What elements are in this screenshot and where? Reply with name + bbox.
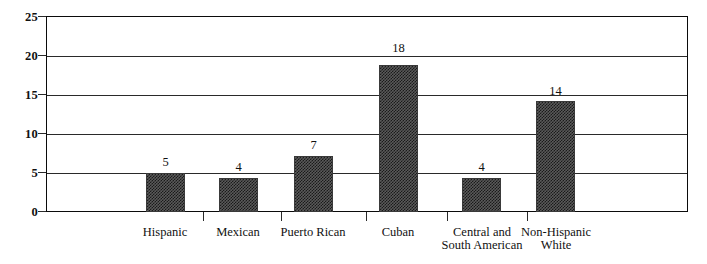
x-tick-mark [203, 212, 204, 221]
bar-mexican[interactable] [219, 178, 258, 213]
y-tick-label: 10 [8, 128, 38, 141]
bar-value-label: 18 [359, 42, 438, 55]
y-tick-label: 15 [8, 89, 38, 102]
bar-value-label: 7 [274, 139, 353, 152]
bar-cuban[interactable] [379, 65, 418, 212]
bar-puerto-rican[interactable] [294, 156, 333, 212]
y-tick-mark [38, 133, 46, 134]
bar-value-label: 5 [126, 156, 205, 169]
bar-chart: 25 20 15 10 5 0 5 4 7 18 4 14 [0, 0, 707, 264]
x-label-non-hispanic-white: Non-Hispanic White [496, 226, 616, 252]
y-tick-label: 20 [8, 50, 38, 63]
y-tick-label: 0 [8, 206, 38, 219]
x-tick-mark [281, 212, 282, 221]
y-tick-label: 5 [8, 167, 38, 180]
bar-value-label: 4 [199, 161, 278, 174]
x-tick-mark [366, 212, 367, 221]
bar-value-label: 4 [442, 161, 521, 174]
y-tick-label: 25 [8, 11, 38, 24]
x-label-line2: White [496, 239, 616, 252]
y-tick-mark [38, 55, 46, 56]
x-tick-mark [447, 212, 448, 221]
y-tick-mark [38, 16, 46, 17]
bar-hispanic[interactable] [146, 173, 185, 212]
bar-value-label: 14 [516, 85, 595, 98]
y-tick-mark [38, 172, 46, 173]
y-tick-mark [38, 94, 46, 95]
x-tick-mark [527, 212, 528, 221]
bar-non-hispanic-white[interactable] [536, 101, 575, 212]
y-tick-mark [38, 211, 46, 212]
bar-central-south-american[interactable] [462, 178, 501, 213]
